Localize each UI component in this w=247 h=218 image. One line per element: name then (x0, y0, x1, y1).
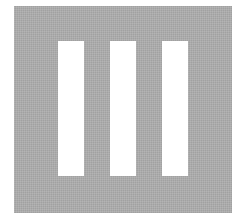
white-bar-2 (110, 41, 136, 176)
white-bar-1 (58, 41, 84, 176)
white-bar-3 (162, 41, 188, 176)
